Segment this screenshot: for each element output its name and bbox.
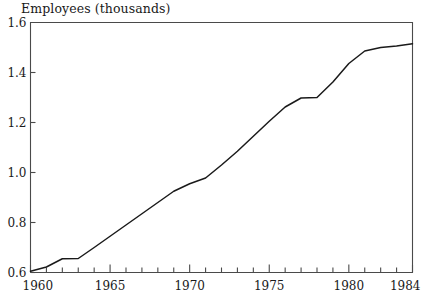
y-tick-label: 1.4	[7, 66, 26, 80]
y-tick-label: 1.2	[7, 116, 26, 130]
x-tick-label: 1975	[254, 279, 285, 293]
x-tick-label: 1984	[390, 279, 421, 293]
series-employees-line	[31, 44, 413, 272]
y-axis-ticks	[31, 73, 36, 273]
x-axis-ticks	[31, 265, 413, 273]
chart-plot-area: 0.60.81.01.21.41.6 196019651970197519801…	[0, 0, 435, 305]
chart-figure: Employees (thousands) 0.60.81.01.21.41.6…	[0, 0, 435, 305]
x-axis-tick-labels: 196019651970197519801984	[23, 279, 421, 293]
x-tick-label: 1960	[23, 279, 54, 293]
x-tick-label: 1980	[334, 279, 365, 293]
x-tick-label: 1965	[95, 279, 126, 293]
y-tick-label: 0.8	[7, 216, 26, 230]
axis-frame	[31, 23, 413, 273]
data-series-line	[31, 44, 413, 272]
y-tick-label: 1.0	[7, 166, 26, 180]
y-axis-tick-labels: 0.60.81.01.21.41.6	[7, 16, 26, 280]
x-tick-label: 1970	[174, 279, 205, 293]
y-tick-label: 1.6	[7, 16, 26, 30]
